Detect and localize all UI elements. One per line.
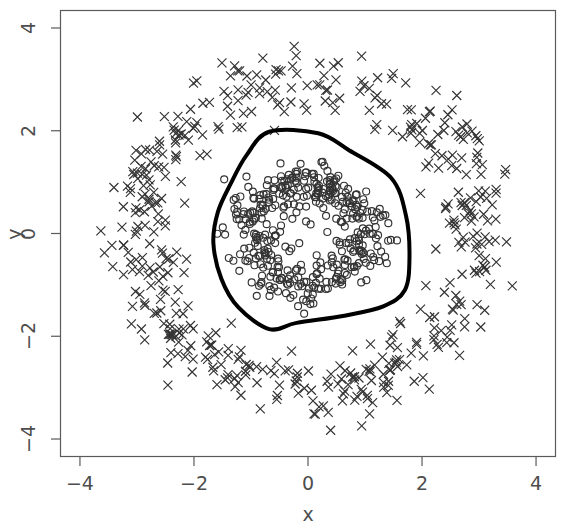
data-point-cross — [144, 271, 153, 280]
data-point-circle — [361, 200, 368, 207]
data-point-cross — [368, 398, 377, 407]
data-point-cross — [485, 237, 494, 246]
data-point-cross — [174, 285, 183, 294]
data-point-cross — [443, 110, 452, 119]
data-point-cross — [202, 337, 211, 346]
data-point-cross — [247, 80, 256, 89]
data-point-cross — [287, 83, 296, 92]
data-point-cross — [454, 188, 463, 197]
data-point-circle — [323, 212, 330, 219]
data-point-cross — [204, 331, 213, 340]
data-point-cross — [210, 350, 219, 359]
data-point-cross — [366, 340, 375, 349]
data-point-cross — [292, 51, 301, 60]
data-point-circle — [324, 229, 331, 236]
data-point-cross — [388, 126, 397, 135]
data-point-cross — [177, 177, 186, 186]
data-point-cross — [253, 378, 262, 387]
data-point-cross — [137, 324, 146, 333]
data-point-cross — [447, 320, 456, 329]
data-point-cross — [133, 112, 142, 121]
data-point-cross — [224, 344, 233, 353]
data-point-cross — [186, 105, 195, 114]
data-point-cross — [138, 192, 147, 201]
data-point-cross — [462, 170, 471, 179]
data-point-circle — [341, 269, 348, 276]
data-point-cross — [331, 106, 340, 115]
data-point-cross — [481, 232, 490, 241]
data-point-cross — [234, 378, 243, 387]
data-point-cross — [149, 227, 158, 236]
x-axis-ticks — [80, 457, 536, 466]
data-point-cross — [166, 348, 175, 357]
decision-boundary-contour — [213, 130, 409, 330]
x-tick-label: −4 — [66, 474, 94, 493]
data-point-cross — [230, 61, 239, 70]
data-point-cross — [415, 138, 424, 147]
data-point-cross — [272, 358, 281, 367]
data-point-cross — [433, 340, 442, 349]
data-point-cross — [473, 300, 482, 309]
data-point-cross — [445, 278, 454, 287]
data-point-cross — [476, 323, 485, 332]
data-point-cross — [335, 361, 344, 370]
data-point-cross — [440, 288, 449, 297]
data-point-cross — [329, 62, 338, 71]
data-point-cross — [184, 136, 193, 145]
x-axis-title: x — [302, 505, 313, 524]
data-point-circle — [295, 303, 302, 310]
data-point-cross — [135, 290, 144, 299]
data-point-cross — [418, 373, 427, 382]
data-point-cross — [192, 76, 201, 85]
data-point-cross — [337, 375, 346, 384]
data-point-cross — [227, 319, 236, 328]
data-point-cross — [145, 239, 154, 248]
data-point-cross — [108, 262, 117, 271]
data-point-cross — [386, 341, 395, 350]
data-point-cross — [431, 149, 440, 158]
data-point-cross — [205, 98, 214, 107]
data-point-cross — [147, 157, 156, 166]
data-point-cross — [154, 209, 163, 218]
series-inner-circles — [214, 158, 401, 317]
data-point-cross — [462, 120, 471, 129]
data-point-cross — [491, 236, 500, 245]
data-point-cross — [458, 122, 467, 131]
data-point-cross — [275, 381, 284, 390]
data-point-cross — [416, 189, 425, 198]
data-point-cross — [242, 91, 251, 100]
data-point-cross — [367, 376, 376, 385]
plot-canvas — [0, 0, 573, 529]
data-point-cross — [182, 255, 191, 264]
data-point-cross — [220, 87, 229, 96]
data-point-circle — [242, 226, 249, 233]
data-point-cross — [117, 223, 126, 232]
data-point-circle — [320, 205, 327, 212]
data-point-circle — [248, 279, 255, 286]
data-point-cross — [174, 126, 183, 135]
data-point-cross — [457, 242, 466, 251]
data-point-cross — [315, 59, 324, 68]
data-point-cross — [146, 263, 155, 272]
data-point-cross — [212, 380, 221, 389]
data-point-cross — [425, 385, 434, 394]
data-point-cross — [156, 295, 165, 304]
data-point-cross — [119, 270, 128, 279]
data-point-cross — [268, 93, 277, 102]
data-point-cross — [180, 199, 189, 208]
data-point-circle — [372, 224, 379, 231]
data-point-cross — [266, 366, 275, 375]
data-point-cross — [412, 338, 421, 347]
data-point-circle — [303, 203, 310, 210]
data-point-cross — [294, 389, 303, 398]
data-point-cross — [439, 126, 448, 135]
data-point-cross — [198, 130, 207, 139]
x-tick-label: 4 — [530, 474, 542, 493]
data-point-cross — [416, 305, 425, 314]
data-point-cross — [304, 367, 313, 376]
data-point-cross — [334, 58, 343, 67]
data-point-cross — [434, 343, 443, 352]
contour-path — [213, 130, 409, 330]
data-point-cross — [244, 88, 253, 97]
data-point-cross — [482, 194, 491, 203]
